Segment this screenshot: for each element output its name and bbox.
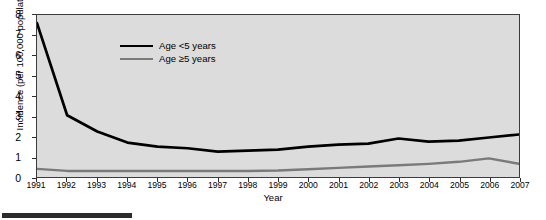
- legend-label-under5: Age <5 years: [159, 39, 216, 52]
- x-tick-label: 2006: [473, 181, 507, 190]
- x-tick-label: 1992: [49, 181, 83, 190]
- x-tick-label: 1996: [170, 181, 204, 190]
- series-lines: [37, 15, 519, 177]
- x-tick-label: 2004: [412, 181, 446, 190]
- line-age-under5: [37, 23, 519, 152]
- legend-swatch-icon-over5: [120, 58, 153, 60]
- x-tick-mark: [127, 178, 128, 182]
- x-tick-mark: [520, 178, 521, 182]
- legend-label-over5: Age ≥5 years: [159, 52, 215, 65]
- x-tick-mark: [429, 178, 430, 182]
- x-tick-label: 1998: [231, 181, 265, 190]
- legend-item-age-under5: Age <5 years: [120, 39, 216, 52]
- x-axis-label: Year: [0, 192, 546, 203]
- x-tick-mark: [157, 178, 158, 182]
- legend-item-age-over5: Age ≥5 years: [120, 52, 216, 65]
- y-tick-label: 1: [0, 152, 21, 163]
- y-tick-label: 5: [0, 70, 21, 81]
- x-tick-label: 2000: [291, 181, 325, 190]
- x-tick-label: 2003: [382, 181, 416, 190]
- x-tick-mark: [66, 178, 67, 182]
- caption-strip: [0, 211, 546, 220]
- y-tick-label: 2: [0, 132, 21, 143]
- x-tick-label: 1994: [110, 181, 144, 190]
- x-tick-mark: [187, 178, 188, 182]
- x-tick-label: 2001: [322, 181, 356, 190]
- x-tick-mark: [308, 178, 309, 182]
- y-tick-label: 3: [0, 111, 21, 122]
- x-tick-label: 1997: [201, 181, 235, 190]
- y-tick-label: 6: [0, 50, 21, 61]
- y-tick-label: 7: [0, 29, 21, 40]
- x-tick-label: 2005: [443, 181, 477, 190]
- x-tick-label: 1991: [19, 181, 53, 190]
- x-tick-mark: [460, 178, 461, 182]
- x-tick-label: 1999: [261, 181, 295, 190]
- x-tick-mark: [369, 178, 370, 182]
- y-tick-label: 0: [0, 173, 21, 184]
- y-tick-label: 8: [0, 9, 21, 20]
- x-tick-mark: [339, 178, 340, 182]
- plot-area: Age <5 years Age ≥5 years: [36, 14, 520, 178]
- x-tick-mark: [399, 178, 400, 182]
- x-tick-mark: [278, 178, 279, 182]
- x-tick-mark: [490, 178, 491, 182]
- x-tick-label: 1993: [80, 181, 114, 190]
- x-tick-label: 2002: [352, 181, 386, 190]
- x-tick-mark: [248, 178, 249, 182]
- x-tick-mark: [218, 178, 219, 182]
- x-tick-mark: [36, 178, 37, 182]
- caption-rule: [2, 213, 132, 218]
- x-tick-label: 1995: [140, 181, 174, 190]
- figure-container: Incidence (per 100,000 population) 01234…: [0, 0, 546, 220]
- x-tick-label: 2007: [503, 181, 537, 190]
- x-tick-mark: [97, 178, 98, 182]
- line-age-over5: [37, 158, 519, 171]
- y-tick-label: 4: [0, 91, 21, 102]
- chart-legend: Age <5 years Age ≥5 years: [120, 39, 216, 65]
- legend-swatch-icon-under5: [120, 45, 153, 47]
